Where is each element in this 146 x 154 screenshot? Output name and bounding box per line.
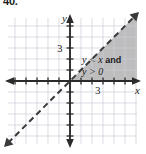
y-axis-label: y bbox=[62, 12, 67, 24]
x-axis-label: x bbox=[135, 84, 140, 96]
y-axis-tick-label-3: 3 bbox=[57, 42, 63, 54]
coordinate-plane bbox=[0, 0, 146, 154]
region-annotation-line-2: y > 0 bbox=[82, 66, 121, 77]
x-axis-tick-label-3: 3 bbox=[95, 84, 101, 96]
region-annotation-line-1: y < x and bbox=[82, 54, 121, 66]
inequality-y-greater-than-zero: y > 0 bbox=[82, 66, 103, 77]
inequality-graph-figure: 40. bbox=[0, 0, 146, 154]
region-annotation: y < x and y > 0 bbox=[82, 54, 121, 77]
conjunction-and: and bbox=[105, 55, 121, 65]
inequality-y-less-than-x: y < x bbox=[82, 54, 103, 65]
